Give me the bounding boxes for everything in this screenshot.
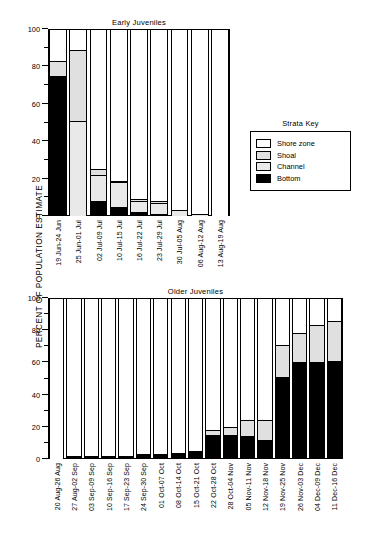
bar-segment-shore: [310, 298, 323, 325]
x-tick-label: 19 Jun-24 Jun: [55, 220, 62, 266]
bar-segment-shore: [50, 29, 66, 61]
bar-segment-shore: [119, 298, 132, 456]
bar-segment-shore: [67, 298, 80, 456]
stacked-bar[interactable]: [136, 298, 151, 459]
bar-segment-shore: [137, 298, 150, 454]
bar-segment-bottom: [241, 436, 254, 459]
stacked-bar[interactable]: [309, 298, 324, 459]
legend-swatch-shoal: [256, 151, 271, 160]
stacked-bar[interactable]: [240, 298, 255, 459]
x-label-cell: 01 Oct-07 Oct: [152, 460, 169, 532]
x-tick-label: 10 Sep-16 Sep: [105, 463, 112, 511]
stacked-bar[interactable]: [188, 298, 203, 459]
bar-segment-shore: [328, 298, 341, 321]
bar-segment-bottom: [151, 214, 167, 216]
bar-segment-bottom: [50, 76, 66, 216]
bar-segment-shoal: [224, 427, 237, 435]
stacked-bar[interactable]: [257, 298, 272, 459]
stacked-bar[interactable]: [211, 29, 229, 216]
stacked-bar[interactable]: [84, 298, 99, 459]
x-axis-labels-older: 20 Aug-26 Aug27 Aug-02 Sep03 Sep-09 Sep1…: [48, 460, 343, 532]
bar-slot: [117, 298, 134, 459]
y-tick-label: 20: [32, 174, 40, 183]
bar-segment-shore: [154, 298, 167, 454]
bar-segment-bottom: [258, 440, 271, 459]
x-label-cell: 26 Nov-03 Dec: [291, 460, 308, 532]
bar-slot: [48, 29, 68, 216]
bar-slot: [170, 298, 187, 459]
bar-segment-shore: [172, 29, 188, 210]
bar-segment-shore: [189, 298, 202, 451]
legend-item-shore[interactable]: Shore zone: [256, 139, 343, 148]
stacked-bar[interactable]: [110, 29, 128, 216]
y-tick-label: 0: [36, 212, 40, 221]
x-tick-label: 08 Oct-14 Oct: [175, 463, 182, 508]
bar-segment-bottom: [172, 453, 185, 459]
stacked-bar[interactable]: [150, 29, 168, 216]
bar-slot: [256, 298, 273, 459]
legend-box: Shore zoneShoalChannelBottom: [250, 131, 351, 191]
bar-segment-shoal: [50, 61, 66, 76]
bar-segment-bottom: [91, 201, 107, 216]
stacked-bar[interactable]: [118, 298, 133, 459]
bar-slot: [48, 298, 65, 459]
x-tick-label: 28 Oct-04 Nov: [227, 463, 234, 509]
stacked-bar[interactable]: [90, 29, 108, 216]
legend-item-channel[interactable]: Channel: [256, 162, 343, 171]
stacked-bar[interactable]: [327, 298, 342, 459]
bar-segment-shore: [70, 29, 86, 50]
bar-segment-bottom: [276, 377, 289, 459]
legend-label: Shore zone: [277, 139, 315, 148]
bar-slot: [129, 29, 149, 216]
x-tick-label: 22 Oct-28 Oct: [209, 463, 216, 508]
y-tick-label: 100: [28, 25, 40, 34]
bar-slot: [83, 298, 100, 459]
stacked-bar[interactable]: [66, 298, 81, 459]
stacked-bar[interactable]: [205, 298, 220, 459]
bar-segment-shore: [172, 298, 185, 453]
bar-slot: [210, 29, 230, 216]
stacked-bar[interactable]: [49, 298, 64, 459]
stacked-bar[interactable]: [49, 29, 67, 216]
legend-label: Bottom: [277, 174, 300, 183]
legend-title: Strata Key: [250, 119, 351, 128]
x-tick-label: 20 Aug-26 Aug: [53, 463, 60, 510]
bar-segment-bottom: [119, 456, 132, 459]
bar-segment-shoal: [258, 420, 271, 439]
stacked-bar[interactable]: [275, 298, 290, 459]
legend-item-shoal[interactable]: Shoal: [256, 151, 343, 160]
stacked-bar[interactable]: [69, 29, 87, 216]
bar-segment-shore: [212, 29, 228, 216]
bar-slot: [149, 29, 169, 216]
stacked-bar[interactable]: [153, 298, 168, 459]
bar-group-early: [48, 29, 230, 216]
bar-segment-shore: [91, 29, 107, 169]
stacked-bar[interactable]: [171, 29, 189, 216]
x-label-cell: 03 Sep-09 Sep: [83, 460, 100, 532]
bar-group-older: [48, 298, 343, 459]
stacked-bar[interactable]: [292, 298, 307, 459]
stacked-bar[interactable]: [191, 29, 209, 216]
bar-segment-bottom: [293, 362, 306, 459]
x-label-cell: 10 Jul-15 Jul: [109, 217, 129, 275]
bar-slot: [291, 298, 308, 459]
x-label-cell: 17 Sep-23 Sep: [117, 460, 134, 532]
y-tick-label: 60: [32, 99, 40, 108]
x-label-cell: 06 Aug-12 Aug: [190, 217, 210, 275]
x-tick-label: 23 Jul-29 Jul: [156, 220, 163, 261]
bar-slot: [68, 29, 88, 216]
stacked-bar[interactable]: [101, 298, 116, 459]
bar-slot: [326, 298, 343, 459]
stacked-bar[interactable]: [130, 29, 148, 216]
stacked-bar[interactable]: [171, 298, 186, 459]
bar-segment-shoal: [328, 321, 341, 361]
stacked-bar[interactable]: [223, 298, 238, 459]
legend-item-bottom[interactable]: Bottom: [256, 174, 343, 183]
bar-segment-channel: [192, 214, 208, 216]
bar-segment-bottom: [224, 435, 237, 459]
bar-segment-shore: [151, 29, 167, 201]
y-tick-label: 80: [32, 326, 40, 335]
legend-swatch-shore: [256, 139, 271, 148]
bar-segment-channel: [131, 201, 147, 212]
bar-segment-bottom: [67, 456, 80, 459]
